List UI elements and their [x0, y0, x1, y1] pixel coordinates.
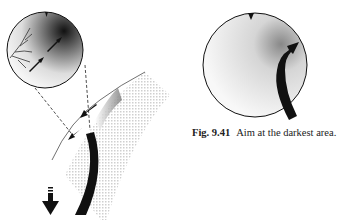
left-illustration — [0, 0, 175, 220]
skin-surface — [52, 72, 170, 220]
arrow-down-icon — [42, 187, 59, 215]
figure-caption: Fig. 9.41 Aim at the darkest area. — [192, 127, 336, 138]
figure-label: Fig. 9.41 — [192, 127, 230, 138]
right-illustration — [185, 0, 339, 125]
caption-text: Aim at the darkest area. — [236, 127, 336, 138]
magnifier-circle — [7, 12, 83, 88]
view-circle — [203, 13, 307, 117]
